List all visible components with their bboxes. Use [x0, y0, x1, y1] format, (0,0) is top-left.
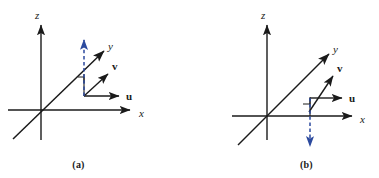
panel-a-diagram: z x y u v — [0, 0, 189, 150]
z-axis-label: z — [260, 9, 266, 21]
x-axis-label: x — [359, 113, 365, 125]
vector-v-label: v — [112, 60, 118, 72]
vector-v-label: v — [337, 62, 343, 74]
y-axis — [238, 54, 329, 145]
panel-b-caption: (b) — [212, 159, 379, 170]
panel-b-diagram: z x y u v — [190, 0, 379, 150]
vector-v-arrow — [84, 74, 108, 96]
panel-a-caption: (a) — [0, 159, 173, 170]
x-axis-label: x — [138, 107, 144, 119]
vector-u-label: u — [126, 90, 132, 102]
vector-cross-product-figure: z x y u v (a) — [0, 0, 379, 178]
vector-u-label: u — [349, 92, 355, 104]
y-axis-label: y — [332, 43, 338, 55]
panel-a: z x y u v (a) — [0, 0, 189, 178]
panel-b: z x y u v (b) — [190, 0, 379, 178]
right-angle-marker — [303, 97, 310, 104]
y-axis-label: y — [107, 40, 113, 52]
y-axis — [13, 51, 104, 139]
z-axis-label: z — [34, 9, 40, 21]
vector-v-arrow — [309, 76, 333, 112]
right-angle-marker — [78, 77, 84, 83]
